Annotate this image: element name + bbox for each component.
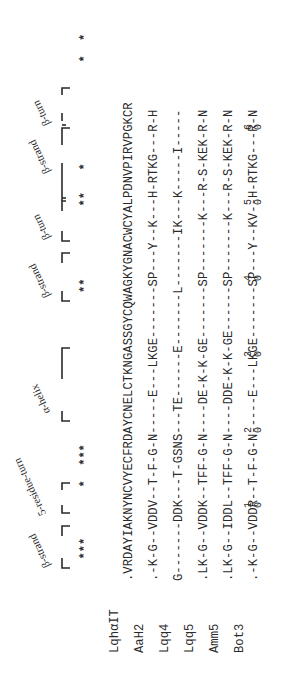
sequence-residues: .VRDAYIAKNYNCVYECFRDAYCNELCTKNGASSGYCQWA… xyxy=(122,102,136,581)
tick-ones: 0 xyxy=(254,500,264,510)
tick-ones: 0 xyxy=(254,273,264,283)
sequence-name: Bot3 xyxy=(233,573,247,653)
sequence-name: Lqq5 xyxy=(183,573,197,653)
tick-ones: 0 xyxy=(254,197,264,207)
tick-ones: 0 xyxy=(254,122,264,132)
sequence-residues: .-K-G--VDDR--T-F-G-N-----E---LKGE-------… xyxy=(247,110,261,581)
secondary-structure-brackets xyxy=(22,0,72,673)
sequence-residues: .LK-G--IDDL--TFF-G-N----DDE-K-K-GE------… xyxy=(222,110,236,581)
conservation-stars: *** * *** ** ** * * * xyxy=(78,34,92,581)
sequence-name: AaH2 xyxy=(133,573,147,653)
sequence-residues: .LK-G--VDDK--TFF-G-N----DE-K-K-GE-------… xyxy=(197,110,211,581)
sequence-residues: G-------DDK---T-GSNS---TE------E-------L… xyxy=(172,110,186,581)
alignment-row: Bot3 .-K-G--VDDR--T-F-G-N-----E---LKGE--… xyxy=(219,644,275,673)
tick-ones: 0 xyxy=(254,349,264,359)
sequence-name: LqhαIT xyxy=(108,573,122,653)
sequence-name: Lqq4 xyxy=(158,573,172,653)
sequence-alignment-figure: β-strand 5-residue-turn α-helix β-strand… xyxy=(0,0,284,673)
sequence-name: Amm5 xyxy=(208,573,222,653)
secondary-structure-track: β-strand 5-residue-turn α-helix β-strand… xyxy=(22,0,72,673)
tick-ones: 0 xyxy=(254,425,264,435)
sequence-residues: .-K-G--VDDV--T-F-G-N-----E---LKGE-------… xyxy=(147,110,161,581)
